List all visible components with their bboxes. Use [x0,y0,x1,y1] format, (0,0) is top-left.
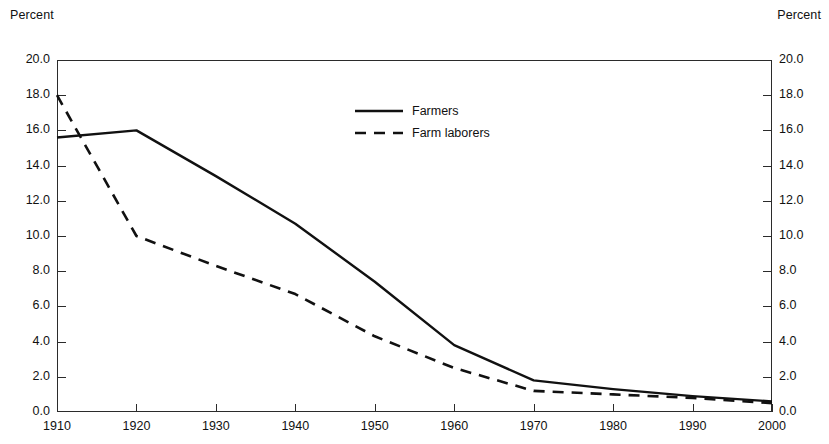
y-tick-label-r: 18.0 [779,87,803,101]
y-tick-label-l: 18.0 [26,87,50,101]
x-tick-label: 1960 [440,419,468,433]
y-tick-label-l: 2.0 [33,369,50,383]
x-tick-label: 1910 [43,419,71,433]
y-tick-label-r: 16.0 [779,122,803,136]
y-tick-label-r: 6.0 [779,298,796,312]
y-tick-label-r: 14.0 [779,158,803,172]
x-tick-label: 1920 [123,419,151,433]
x-tick-label: 1940 [281,419,309,433]
legend-swatch-solid [355,105,403,117]
x-tick-label: 2000 [758,419,786,433]
y-tick-label-r: 10.0 [779,228,803,242]
y-tick-label-r: 4.0 [779,334,796,348]
y-tick-label-l: 4.0 [33,334,50,348]
legend-label: Farm laborers [412,126,490,140]
y-tick-label-l: 0.0 [33,404,50,418]
legend-item: Farm laborers [355,122,490,144]
x-tick-label: 1970 [520,419,548,433]
legend-label: Farmers [412,104,459,118]
chart-legend: FarmersFarm laborers [355,100,490,144]
y-tick-label-r: 0.0 [779,404,796,418]
x-tick [772,404,773,412]
x-tick-label: 1930 [202,419,230,433]
y-tick-label-r: 12.0 [779,193,803,207]
y-tick-label-l: 6.0 [33,298,50,312]
x-tick-label: 1980 [599,419,627,433]
right-axis-title: Percent [777,8,821,22]
legend-item: Farmers [355,100,490,122]
y-tick-label-l: 14.0 [26,158,50,172]
left-axis-title: Percent [10,8,54,22]
y-tick-label-l: 20.0 [26,52,50,66]
legend-swatch-dashed [355,127,403,139]
y-tick-label-r: 8.0 [779,263,796,277]
y-tick-label-l: 8.0 [33,263,50,277]
y-tick-label-l: 12.0 [26,193,50,207]
series-line-farmers [57,130,772,401]
chart-root: Percent Percent 0.02.04.06.08.010.012.01… [0,0,829,444]
y-tick-label-l: 10.0 [26,228,50,242]
y-tick-label-l: 16.0 [26,122,50,136]
x-tick-label: 1990 [679,419,707,433]
y-tick-label-r: 20.0 [779,52,803,66]
y-tick-label-r: 2.0 [779,369,796,383]
x-tick-label: 1950 [361,419,389,433]
